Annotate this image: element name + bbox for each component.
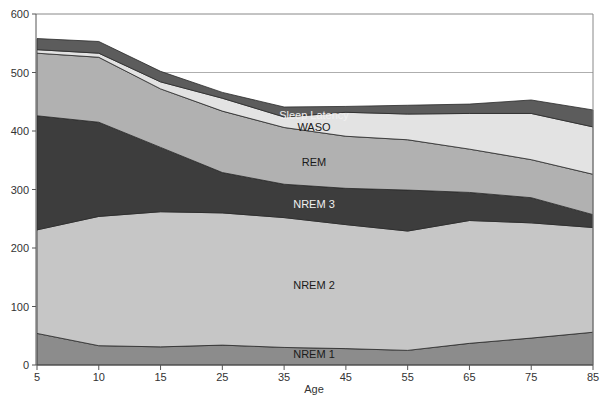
x-tick-label: 10 [93,371,105,383]
x-tick-label: 25 [216,371,228,383]
label-sleep-latency: Sleep Latency [279,109,349,121]
x-tick-label: 65 [463,371,475,383]
label-nrem-3: NREM 3 [293,198,335,210]
y-axis: 0100200300400500600 [11,8,36,371]
x-axis: 5101525354555657585 [34,365,599,383]
label-nrem-2: NREM 2 [293,279,335,291]
x-tick-label: 75 [525,371,537,383]
x-tick-label: 85 [587,371,599,383]
y-tick-label: 300 [11,184,29,196]
y-tick-label: 100 [11,301,29,313]
y-tick-label: 600 [11,8,29,20]
y-tick-label: 500 [11,67,29,79]
x-tick-label: 45 [340,371,352,383]
x-tick-label: 55 [402,371,414,383]
y-tick-label: 200 [11,242,29,254]
label-rem: REM [302,156,326,168]
x-tick-label: 15 [154,371,166,383]
sleep-stage-area-chart: 0100200300400500600 5101525354555657585 … [0,0,608,401]
x-tick-label: 35 [278,371,290,383]
y-tick-label: 0 [23,359,29,371]
label-nrem-1: NREM 1 [293,348,335,360]
label-waso: WASO [297,121,331,133]
x-tick-label: 5 [34,371,40,383]
y-tick-label: 400 [11,125,29,137]
x-axis-title: Age [304,383,324,395]
